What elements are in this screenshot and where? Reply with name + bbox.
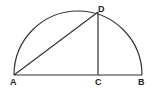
label-D: D — [98, 4, 105, 14]
semicircle-arc — [14, 11, 142, 75]
geometry-diagram: A C B D — [0, 0, 152, 100]
label-A: A — [10, 77, 17, 87]
label-B: B — [138, 77, 145, 87]
chord-AD — [14, 12, 98, 75]
diagram-svg: A C B D — [0, 0, 152, 100]
label-C: C — [95, 77, 102, 87]
